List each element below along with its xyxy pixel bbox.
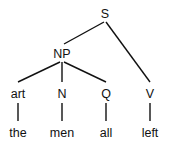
syntax-tree: S NP art N Q V the men all left [0, 0, 172, 148]
node-q: Q [101, 87, 111, 101]
word-men: men [50, 126, 74, 140]
node-art: art [11, 87, 26, 101]
word-all: all [100, 126, 113, 140]
word-the: the [9, 126, 26, 140]
edge-s-v [106, 22, 150, 82]
edge-np-q [64, 62, 106, 82]
node-n: N [57, 87, 66, 101]
node-s: S [101, 7, 109, 21]
edge-np-art [18, 62, 60, 82]
edge-s-np [64, 22, 104, 44]
word-left: left [142, 126, 159, 140]
node-v: V [146, 87, 155, 101]
node-np: NP [53, 47, 70, 61]
